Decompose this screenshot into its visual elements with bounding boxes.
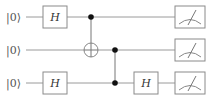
- qubit-0-label: |0⟩: [6, 11, 21, 25]
- qubit-1-label: |0⟩: [6, 44, 21, 58]
- gate-label: H: [49, 77, 60, 90]
- hadamard-gate-q2: H: [43, 72, 67, 94]
- gate-label: H: [49, 11, 60, 24]
- control-dot-icon: [88, 14, 94, 20]
- quantum-circuit: |0⟩ |0⟩ |0⟩ H H H: [0, 0, 207, 106]
- hadamard-gate-q2-second: H: [134, 72, 158, 94]
- cnot-gate: [84, 14, 98, 57]
- qubit-2-label: |0⟩: [6, 77, 21, 91]
- hadamard-gate-q0: H: [43, 6, 67, 28]
- control-dot-icon: [112, 47, 118, 53]
- cz-gate: [112, 47, 118, 86]
- measure-meter-q1: [175, 39, 205, 61]
- measure-meter-q2: [175, 72, 205, 94]
- measure-meter-q0: [175, 6, 205, 28]
- control-dot-icon: [112, 80, 118, 86]
- gate-label: H: [140, 77, 151, 90]
